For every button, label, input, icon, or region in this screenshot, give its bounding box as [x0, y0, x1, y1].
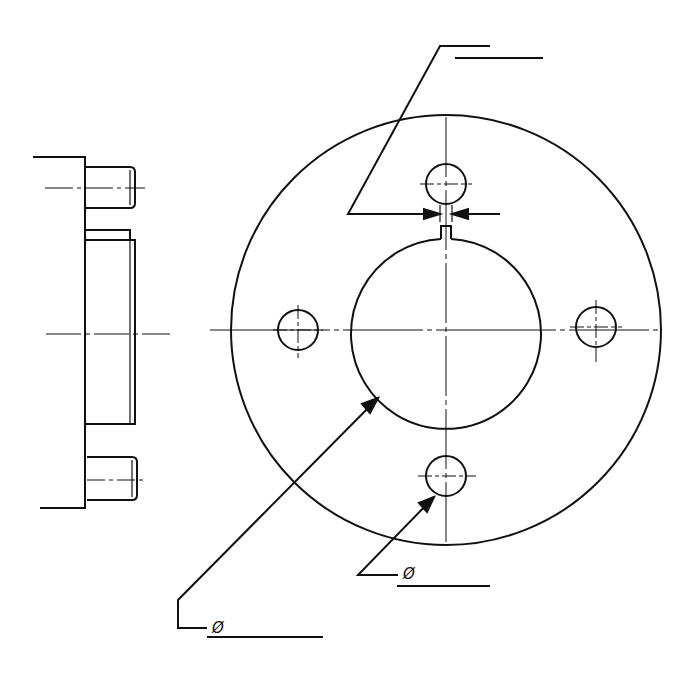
side-centerlines: [45, 188, 170, 480]
side-view: [33, 157, 137, 508]
bolt-hole-diameter-symbol: Ø: [403, 565, 415, 583]
bore-diameter-symbol: Ø: [212, 619, 224, 637]
bore-diameter-leader: [178, 398, 378, 637]
bolt-hole-diameter-leader: [358, 497, 490, 586]
technical-drawing: [0, 0, 695, 678]
